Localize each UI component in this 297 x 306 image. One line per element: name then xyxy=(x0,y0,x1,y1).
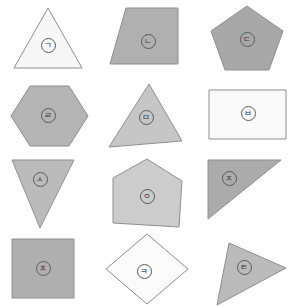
shape-cell-quadrilateral-1[interactable]: ㄴ xyxy=(99,0,198,77)
shape-label-badge: ㅂ xyxy=(241,106,256,121)
inverted-triangle-polygon xyxy=(12,160,74,228)
shape-cell-house-pentagon-7[interactable]: ㅇ xyxy=(99,153,198,230)
shape-cell-rectangle-5[interactable]: ㅂ xyxy=(198,77,297,154)
shape-cell-inverted-triangle-6[interactable]: ㅅ xyxy=(0,153,99,230)
shape-label-badge: ㄹ xyxy=(41,108,56,123)
shape-label-badge: ㄱ xyxy=(41,38,56,53)
shape-label-badge: ㅇ xyxy=(140,189,155,204)
shape-label-badge: ㅌ xyxy=(237,260,252,275)
shape-grid-canvas: ㄱㄴㄷㄹㅁㅂㅅㅇㅈㅊㅋㅌ xyxy=(0,0,297,306)
shape-cell-hexagon-3[interactable]: ㄹ xyxy=(0,77,99,154)
triangle-polygon xyxy=(217,243,286,305)
shape-label-badge: ㅊ xyxy=(36,261,51,276)
shape-label-badge: ㄷ xyxy=(240,32,255,47)
right-triangle-icon xyxy=(198,153,297,230)
right-triangle-polygon xyxy=(208,160,281,219)
shape-cell-right-triangle-8[interactable]: ㅈ xyxy=(198,153,297,230)
shape-label-badge: ㅋ xyxy=(137,264,152,279)
shape-label-badge: ㅈ xyxy=(222,171,237,186)
inverted-triangle-icon xyxy=(0,153,99,230)
shape-label-badge: ㄴ xyxy=(141,34,156,49)
shape-cell-diamond-10[interactable]: ㅋ xyxy=(99,230,198,306)
shape-cell-square-9[interactable]: ㅊ xyxy=(0,230,99,306)
shape-label-badge: ㅁ xyxy=(139,110,154,125)
shape-cell-pentagon-2[interactable]: ㄷ xyxy=(198,0,297,77)
shape-cell-triangle-0[interactable]: ㄱ xyxy=(0,0,99,77)
shape-cell-triangle-4[interactable]: ㅁ xyxy=(99,77,198,154)
shape-cell-triangle-11[interactable]: ㅌ xyxy=(198,230,297,306)
shape-label-badge: ㅅ xyxy=(33,172,48,187)
